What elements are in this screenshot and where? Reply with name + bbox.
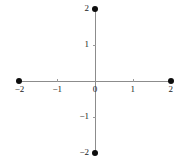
x-tick-label: 1 [123,85,143,94]
x-tick-label: 0 [85,85,105,94]
y-tick-label: 2 [69,4,89,13]
scatter-plot: −2−101221−1−2 [0,0,191,159]
y-axis-line [95,8,96,153]
y-tick-label: 1 [69,40,89,49]
data-point-right-point [168,78,174,84]
y-tick-mark [93,45,96,46]
x-tick-mark [57,79,58,82]
x-tick-label: −2 [9,85,29,94]
data-point-top-point [92,6,98,12]
x-axis-line [21,81,173,82]
y-tick-mark [93,117,96,118]
x-tick-label: 2 [161,85,181,94]
data-point-bottom-point [92,150,98,156]
y-tick-label: −2 [69,148,89,157]
y-tick-label: −1 [69,112,89,121]
x-tick-label: −1 [47,85,67,94]
x-tick-mark [133,79,134,82]
